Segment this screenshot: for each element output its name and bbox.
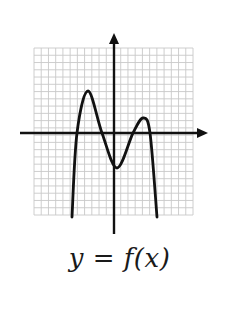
function-label: y = f(x) <box>0 243 239 273</box>
x-axis-arrow-icon <box>197 128 208 138</box>
function-graph <box>0 0 239 326</box>
y-axis-arrow-icon <box>109 33 119 44</box>
